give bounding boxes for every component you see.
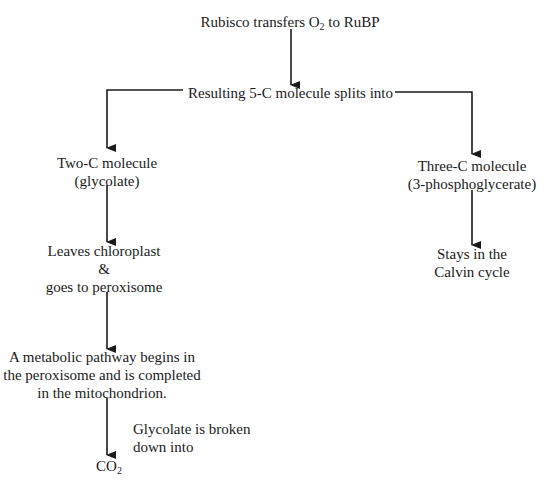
node-pathway-line3: in the mitochondrion. (3, 384, 200, 402)
node-pathway-line1: A metabolic pathway begins in (3, 348, 200, 366)
edge-label-line1: Glycolate is broken (133, 420, 250, 438)
node-leaves-line3: goes to peroxisome (46, 278, 163, 296)
node-two-c-line2: (glycolate) (57, 172, 157, 190)
edge-label-broken-down: Glycolate is broken down into (133, 420, 250, 456)
node-three-c-line2: (3-phosphoglycerate) (408, 175, 536, 193)
node-pathway-line2: the peroxisome and is completed (3, 366, 200, 384)
node-rubisco-text: Rubisco transfers O (200, 14, 319, 30)
edge-label-line2: down into (133, 438, 250, 456)
node-stays: Stays in the Calvin cycle (434, 245, 509, 281)
node-two-c-line1: Two-C molecule (57, 154, 157, 172)
node-three-c: Three-C molecule (3-phosphoglycerate) (408, 157, 536, 193)
node-leaves-line1: Leaves chloroplast (46, 242, 163, 260)
node-co2-text: CO (96, 458, 117, 474)
node-pathway: A metabolic pathway begins in the peroxi… (3, 348, 200, 402)
node-co2: CO2 (96, 457, 122, 475)
node-two-c: Two-C molecule (glycolate) (57, 154, 157, 190)
node-rubisco: Rubisco transfers O2 to RuBP (200, 13, 379, 31)
node-stays-line2: Calvin cycle (434, 263, 509, 281)
subscript: 2 (117, 465, 122, 476)
node-rubisco-text-end: to RuBP (325, 14, 380, 30)
node-leaves: Leaves chloroplast & goes to peroxisome (46, 242, 163, 296)
arrow-split-to-two-c (107, 90, 183, 148)
node-stays-line1: Stays in the (434, 245, 509, 263)
arrow-split-to-three-c (395, 92, 472, 154)
node-split: Resulting 5-C molecule splits into (188, 84, 393, 102)
node-three-c-line1: Three-C molecule (408, 157, 536, 175)
node-leaves-line2: & (46, 260, 163, 278)
